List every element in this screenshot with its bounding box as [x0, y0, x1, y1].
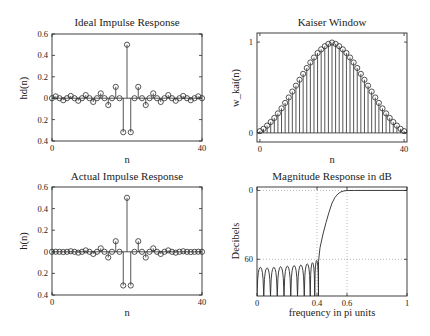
y-tick-label: 0 — [44, 93, 48, 103]
y-tick-label: 60 — [245, 254, 254, 264]
y-tick-label: 0.2 — [37, 115, 48, 125]
x-tick-label: 0 — [255, 298, 259, 308]
subplot-kaiser-window: Kaiser Window n w_kai(n) 04001 — [230, 16, 408, 165]
y-axis-label: h(n) — [18, 232, 30, 250]
plot-area: 0400.60.40.200.20.4 — [37, 182, 206, 307]
y-tick-label: 0.4 — [37, 136, 48, 146]
plot-area: 00.40.61060 — [245, 185, 410, 308]
y-tick-label: 0.6 — [37, 29, 48, 39]
x-tick-label: 0 — [50, 143, 54, 153]
plot-title: Actual Impulse Response — [71, 170, 184, 182]
y-tick-label: 0.2 — [37, 268, 48, 278]
x-axis-label: n — [124, 307, 130, 318]
magnitude-curve — [257, 190, 407, 296]
figure: Ideal Impulse Response n hd(n) 0400.60.4… — [0, 0, 430, 336]
y-tick-label: 0 — [249, 185, 253, 195]
plot-title: Magnitude Response in dB — [272, 170, 391, 182]
y-tick-label: 0.2 — [37, 225, 48, 235]
y-tick-label: 0.4 — [37, 50, 48, 60]
plot-area: 0400.60.40.200.20.4 — [37, 29, 206, 153]
y-tick-label: 0 — [44, 247, 48, 257]
x-axis-label: n — [329, 154, 335, 165]
plot-title: Ideal Impulse Response — [74, 16, 179, 28]
x-tick-label: 0.4 — [312, 298, 323, 308]
y-tick-label: 0.4 — [37, 204, 48, 214]
subplot-actual-impulse-response: Actual Impulse Response n h(n) 0400.60.4… — [18, 170, 206, 318]
x-tick-label: 1 — [405, 298, 409, 308]
x-tick-label: 0 — [258, 144, 262, 154]
y-tick-label: 0.2 — [37, 72, 48, 82]
plot-title: Kaiser Window — [298, 16, 367, 28]
y-tick-label: 0.6 — [37, 182, 48, 192]
x-tick-label: 0.6 — [342, 298, 353, 308]
subplot-magnitude-response: Magnitude Response in dB frequency in pi… — [230, 170, 409, 318]
x-tick-label: 0 — [50, 297, 54, 307]
x-axis-label: frequency in pi units — [289, 307, 376, 318]
plot-area: 04001 — [249, 33, 409, 154]
y-tick-label: 1 — [249, 37, 253, 47]
y-axis-label: Decibels — [230, 223, 241, 260]
x-tick-label: 40 — [198, 297, 207, 307]
x-tick-label: 40 — [198, 143, 207, 153]
x-axis-label: n — [124, 154, 130, 165]
subplot-ideal-impulse-response: Ideal Impulse Response n hd(n) 0400.60.4… — [18, 16, 206, 165]
y-tick-label: 0 — [249, 128, 253, 138]
y-tick-label: 0.4 — [37, 290, 48, 300]
y-axis-label: w_kai(n) — [230, 69, 242, 107]
y-axis-label: hd(n) — [18, 76, 30, 99]
x-tick-label: 40 — [400, 144, 409, 154]
